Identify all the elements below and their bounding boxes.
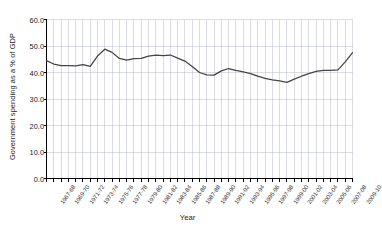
chart-container: Government spending as a % of GDP Year 0… <box>0 0 375 233</box>
plot-area <box>0 0 375 233</box>
